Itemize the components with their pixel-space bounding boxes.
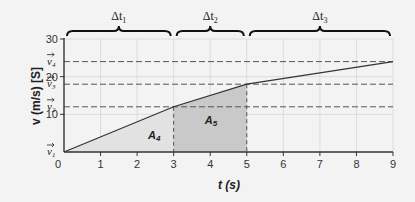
velocity-time-chart: 0123456789102030 Δt1Δt2Δt3 v1v2v3v4 A4A5… [0,0,415,202]
y-axis-label: v (m/s) [S] [29,67,43,125]
x-axis-label: t (s) [218,178,240,192]
interval-braces: Δt1Δt2Δt3 [67,9,390,36]
x-tick-label: 7 [317,158,323,170]
velocity-subscript: 3 [51,83,56,91]
x-tick-label: 8 [353,158,359,170]
x-tick-label: 6 [280,158,286,170]
x-tick-label: 4 [207,158,213,170]
x-tick-label: 9 [390,158,396,170]
interval-subscript: 3 [323,16,327,25]
velocity-label-v1: v1 [47,145,55,159]
interval-brace-1 [67,26,171,36]
area-subscript: 4 [155,134,161,143]
velocity-label-v4: v4 [47,55,56,69]
x-tick-label: 3 [171,158,177,170]
interval-label-2: Δt2 [203,9,218,25]
interval-brace-2 [177,26,244,36]
interval-subscript: 2 [214,16,218,25]
interval-label-1: Δt1 [111,9,126,25]
y-tick-label: 30 [46,33,58,45]
x-tick-label: 2 [134,158,140,170]
velocity-labels: v1v2v3v4 [47,53,56,159]
velocity-subscript: 2 [52,106,56,114]
interval-brace-3 [250,26,390,36]
area-subscript: 5 [213,119,218,128]
interval-subscript: 1 [122,16,126,25]
x-tick-label: 1 [97,158,103,170]
velocity-subscript: 1 [52,151,56,159]
velocity-label-v2: v2 [47,100,56,114]
x-tick-label: 0 [55,158,61,170]
x-tick-label: 5 [244,158,250,170]
velocity-subscript: 4 [52,61,56,69]
interval-label-3: Δt3 [312,9,327,25]
